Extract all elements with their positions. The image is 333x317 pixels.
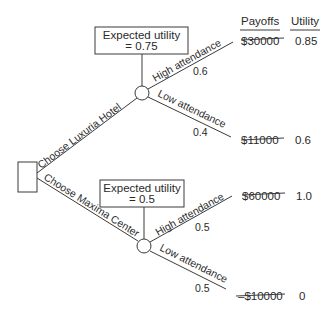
chance-node-luxuria (135, 86, 149, 100)
utility-luxuria-high: 0.85 (295, 35, 317, 47)
payoff-maxima-high: $60000 (242, 190, 280, 202)
probability-luxuria-high: 0.6 (193, 65, 208, 77)
branch-maxima-low-label: Low attendance (158, 241, 230, 285)
branch-luxuria-label: Choose Luxuria Hotel (35, 100, 123, 170)
decision-tree-diagram: Payoffs Utility Choose Luxuria Hotel Cho… (0, 0, 333, 317)
utility-maxima-low: 0 (299, 290, 305, 302)
expected-utility-value-luxuria: = 0.75 (125, 40, 157, 52)
utility-luxuria-low: 0.6 (295, 134, 311, 146)
expected-utility-label-luxuria: Expected utility (103, 29, 181, 41)
probability-maxima-low: 0.5 (195, 282, 210, 294)
decision-tree-svg: Payoffs Utility Choose Luxuria Hotel Cho… (0, 0, 333, 317)
probability-luxuria-low: 0.4 (193, 126, 208, 138)
utility-maxima-high: 1.0 (296, 190, 312, 202)
payoff-luxuria-high: $30000 (241, 35, 279, 47)
probability-maxima-high: 0.5 (195, 221, 210, 233)
decision-node-square (18, 162, 37, 192)
chance-node-maxima (137, 239, 151, 253)
expected-utility-value-maxima: = 0.5 (129, 193, 155, 205)
utility-header: Utility (291, 15, 319, 27)
expected-utility-label-maxima: Expected utility (103, 182, 181, 194)
payoffs-header: Payoffs (241, 15, 279, 27)
branch-luxuria-low-label: Low attendance (156, 87, 228, 130)
